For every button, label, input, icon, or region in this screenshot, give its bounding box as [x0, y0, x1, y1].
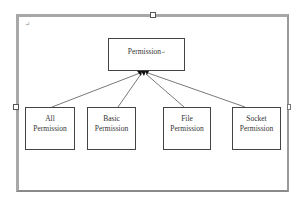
node-file-permission[interactable]: File Permission: [163, 107, 211, 150]
node-label-line1: File: [164, 114, 210, 124]
node-label-line2: Permission: [164, 124, 210, 134]
connector-lines: [0, 0, 301, 208]
node-label-line1: All: [26, 114, 74, 124]
node-label-line2: Permission: [88, 124, 135, 134]
node-basic-permission[interactable]: Basic Permission: [87, 107, 136, 150]
node-label-line2: Permission: [233, 124, 280, 134]
node-label-line2: Permission: [26, 124, 74, 134]
edge-socket-to-root: [148, 73, 245, 107]
node-all-permission[interactable]: All Permission: [25, 107, 75, 150]
node-permission[interactable]: Permission↵: [108, 38, 185, 71]
node-label-line1: Socket: [233, 114, 280, 124]
node-permission-label: Permission↵: [128, 47, 166, 56]
edge-all-to-root: [52, 73, 140, 107]
node-label-line1: Basic: [88, 114, 135, 124]
edge-basic-to-root: [118, 74, 141, 107]
node-socket-permission[interactable]: Socket Permission: [232, 107, 281, 150]
